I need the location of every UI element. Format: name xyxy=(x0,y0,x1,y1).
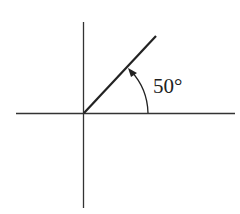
angle-label: 50° xyxy=(153,76,182,97)
terminal-ray xyxy=(84,36,156,113)
angle-arc xyxy=(131,71,148,113)
angle-diagram xyxy=(0,0,240,214)
